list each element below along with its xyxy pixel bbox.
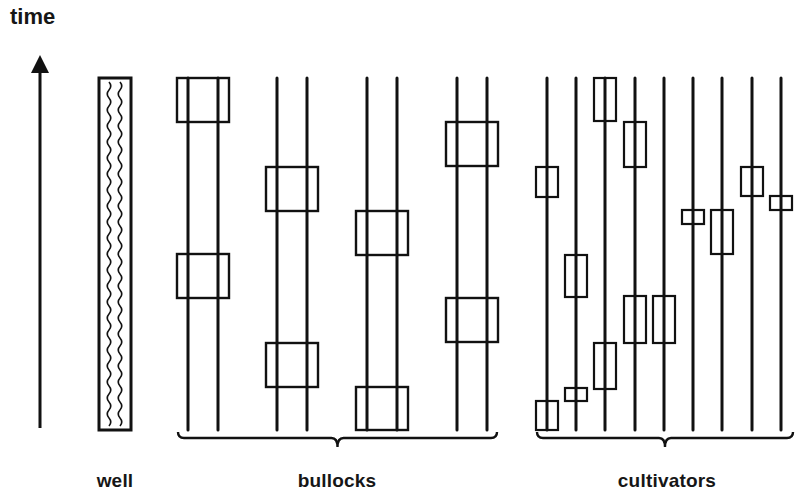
bullock-pair <box>446 78 498 430</box>
group-braces <box>178 432 793 447</box>
cultivators-group <box>536 78 792 430</box>
cultivator <box>770 78 792 430</box>
cultivator <box>536 78 558 430</box>
cultivator <box>653 78 675 430</box>
water-wave-line <box>118 82 122 426</box>
work-period-box <box>266 343 318 387</box>
bullock-pair <box>266 78 318 430</box>
time-arrow <box>31 55 49 428</box>
work-period-box <box>177 78 229 122</box>
bullock-pair <box>356 78 408 430</box>
work-period-box <box>177 254 229 298</box>
bullocks-label: bullocks <box>298 470 377 492</box>
cultivator <box>711 78 733 430</box>
bullocks-brace <box>178 432 497 447</box>
work-period-box <box>446 122 498 166</box>
cultivator <box>682 78 704 430</box>
cultivator <box>741 78 763 430</box>
work-period-box <box>356 211 408 255</box>
well-outline <box>99 78 131 430</box>
bullocks-group <box>177 78 498 430</box>
work-period-box <box>356 387 408 430</box>
cultivator <box>565 78 587 430</box>
cultivators-brace <box>537 432 793 447</box>
arrow-up-icon <box>31 55 49 73</box>
work-period-box <box>266 167 318 211</box>
well-label: well <box>97 470 134 492</box>
water-wave-line <box>107 82 111 426</box>
resource-timeline-diagram <box>0 0 803 498</box>
work-period-box <box>446 298 498 342</box>
cultivators-label: cultivators <box>618 470 716 492</box>
cultivator <box>624 78 646 430</box>
bullock-pair <box>177 78 229 430</box>
cultivator <box>594 78 616 430</box>
well-column <box>99 78 131 430</box>
